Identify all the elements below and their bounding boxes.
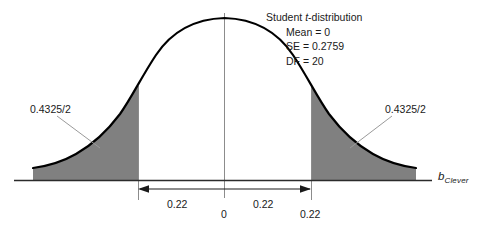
left-tail-leader-line bbox=[57, 116, 100, 148]
x-axis-variable-label: bClever bbox=[438, 171, 469, 185]
span-label-right: 0.22 bbox=[253, 199, 273, 210]
annotation-mean: Mean = 0 bbox=[262, 25, 412, 40]
tick-label-zero: 0 bbox=[221, 209, 227, 220]
span-arrow-right-head bbox=[300, 185, 311, 193]
annotation-title-prefix: Student bbox=[266, 11, 305, 23]
left-tail-area-label: 0.4325/2 bbox=[30, 104, 71, 115]
right-tail-leader-line bbox=[350, 116, 392, 148]
tick-label-right: 0.22 bbox=[300, 209, 320, 220]
annotation-title-suffix: -distribution bbox=[308, 11, 362, 23]
x-axis-variable-subscript: Clever bbox=[444, 176, 468, 185]
span-arrow-left-head bbox=[138, 185, 149, 193]
t-distribution-figure: Student t-distribution Mean = 0 SE = 0.2… bbox=[0, 0, 480, 234]
right-tail-area-label: 0.4325/2 bbox=[385, 104, 426, 115]
distribution-annotation-block: Student t-distribution Mean = 0 SE = 0.2… bbox=[262, 10, 412, 68]
annotation-se: SE = 0.2759 bbox=[262, 39, 412, 54]
annotation-title: Student t-distribution bbox=[262, 10, 412, 25]
span-label-left: 0.22 bbox=[167, 199, 187, 210]
annotation-df: DF = 20 bbox=[262, 54, 412, 69]
